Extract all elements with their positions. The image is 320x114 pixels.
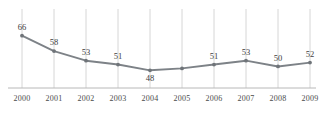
x-tick-2002: 2002	[69, 94, 103, 103]
gridlines	[22, 9, 310, 88]
x-tick-2004: 2004	[133, 94, 167, 103]
value-label-2000: 66	[10, 22, 34, 32]
x-tick-2000: 2000	[5, 94, 39, 103]
data-point-2009[interactable]	[308, 61, 312, 65]
line-chart: 665853514851535052 200020012002200320042…	[0, 0, 320, 114]
data-point-2006[interactable]	[212, 63, 216, 67]
value-label-2009: 52	[298, 49, 320, 59]
data-point-2003[interactable]	[116, 63, 120, 67]
data-point-2002[interactable]	[84, 59, 88, 63]
value-label-2002: 53	[74, 47, 98, 57]
x-tick-2003: 2003	[101, 94, 135, 103]
x-tick-2008: 2008	[261, 94, 295, 103]
data-point-2001[interactable]	[52, 49, 56, 53]
x-tick-2006: 2006	[197, 94, 231, 103]
data-point-2004[interactable]	[148, 68, 152, 72]
x-tick-2001: 2001	[37, 94, 71, 103]
data-point-2008[interactable]	[276, 65, 280, 69]
value-label-2004: 48	[138, 73, 162, 83]
data-point-2000[interactable]	[20, 34, 24, 38]
value-label-2001: 58	[42, 37, 66, 47]
value-label-2003: 51	[106, 51, 130, 61]
x-tick-2005: 2005	[165, 94, 199, 103]
x-tick-2007: 2007	[229, 94, 263, 103]
data-point-2007[interactable]	[244, 59, 248, 63]
value-label-2008: 50	[266, 53, 290, 63]
value-label-2007: 53	[234, 47, 258, 57]
data-point-2005[interactable]	[180, 66, 184, 70]
value-label-2006: 51	[202, 51, 226, 61]
x-tick-2009: 2009	[293, 94, 320, 103]
